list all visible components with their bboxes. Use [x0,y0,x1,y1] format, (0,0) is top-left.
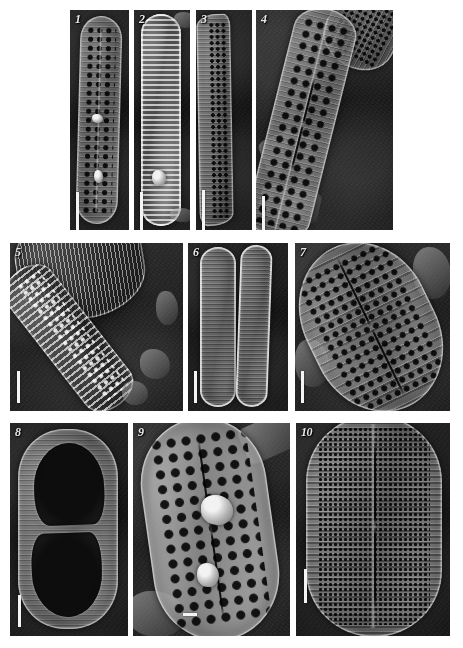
diatom-valve [141,14,181,226]
background-debris [174,12,190,28]
panel-7[interactable]: 7 [295,243,450,411]
debris-lump [201,495,233,525]
diatom-valve-right [235,244,273,407]
scale-bar [301,371,304,403]
debris-lump [94,170,103,183]
background-debris [156,291,178,325]
diatom-valve [306,423,442,636]
valve-mantle [141,14,181,226]
scale-bar [202,190,205,230]
raphe-slit [374,442,376,611]
diatom-valve [18,429,118,629]
panel-2[interactable]: 2 [134,10,190,230]
background-debris [122,381,148,405]
background-debris [170,208,190,222]
panel-number-label: 7 [300,246,306,258]
panel-4[interactable]: 4 [256,10,393,230]
panel-number-label: 10 [301,426,312,438]
panel-number-label: 8 [15,426,21,438]
debris-lump [197,563,219,587]
panel-number-label: 1 [75,13,81,25]
debris-lump [152,170,166,186]
panel-1[interactable]: 1 [70,10,129,230]
scale-bar [194,371,197,403]
panel-number-label: 6 [193,246,199,258]
panel-number-label: 9 [138,426,144,438]
panel-number-label: 5 [15,246,21,258]
diatom-valve-left [200,247,236,407]
panel-9[interactable]: 9 [133,423,290,636]
micrograph-plate: 1 2 3 [0,0,463,648]
scale-bar [262,196,265,230]
scale-bar [304,569,307,603]
scale-bar [76,192,79,230]
scale-bar [183,613,197,616]
valve-mantle [200,247,236,407]
scale-bar [18,595,21,627]
scale-bar [140,192,143,230]
panel-number-label: 2 [139,13,145,25]
panel-8[interactable]: 8 [10,423,128,636]
scale-bar [17,371,20,403]
panel-number-label: 4 [261,13,267,25]
background-debris [140,349,170,379]
areolae-pores [208,22,229,218]
panel-6[interactable]: 6 [188,243,288,411]
panel-10[interactable]: 10 [296,423,450,636]
valve-mantle [235,244,273,407]
debris-lump [92,114,103,123]
panel-number-label: 3 [201,13,207,25]
panel-5[interactable]: 5 [10,243,183,411]
panel-3[interactable]: 3 [196,10,252,230]
